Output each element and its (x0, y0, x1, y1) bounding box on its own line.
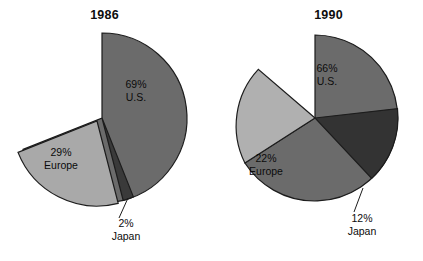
slice-name-europe-1990: Europe (233, 165, 299, 178)
chart-panel-1990: 1990 66% U.S. 22% Europe 12% Japan (211, 0, 422, 261)
slice-name-us-1986: U.S. (106, 91, 166, 104)
slice-value-japan-1986: 2% (99, 217, 153, 230)
slice-name-japan-1986: Japan (99, 230, 153, 243)
slice-name-europe-1986: Europe (28, 159, 94, 172)
chart-panel-1986: 1986 69% U.S. 29% Europe 2% Japan (0, 0, 211, 261)
slice-value-europe-1986: 29% (28, 146, 94, 159)
leader-line-japan-1990 (354, 188, 363, 212)
slice-label-us-1986: 69% U.S. (106, 78, 166, 103)
slice-label-europe-1990: 22% Europe (233, 152, 299, 177)
slice-name-us-1990: U.S. (297, 75, 357, 88)
slice-value-us-1986: 69% (106, 78, 166, 91)
slice-value-japan-1990: 12% (335, 212, 389, 225)
slice-label-japan-1990: 12% Japan (335, 212, 389, 237)
pie-svg-1990 (211, 0, 422, 261)
slice-name-japan-1990: Japan (335, 225, 389, 238)
slice-value-europe-1990: 22% (233, 152, 299, 165)
slice-value-us-1990: 66% (297, 62, 357, 75)
pie-chart-figure: 1986 69% U.S. 29% Europe 2% Japan (0, 0, 423, 261)
slice-label-europe-1986: 29% Europe (28, 146, 94, 171)
slice-label-us-1990: 66% U.S. (297, 62, 357, 87)
slice-label-japan-1986: 2% Japan (99, 217, 153, 242)
